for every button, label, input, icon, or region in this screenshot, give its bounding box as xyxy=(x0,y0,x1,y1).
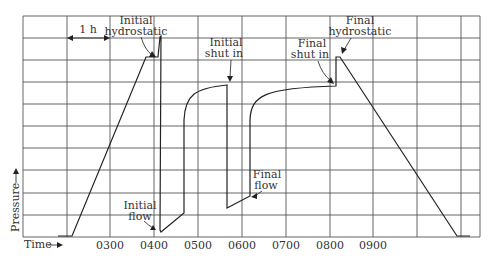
svg-text:0400: 0400 xyxy=(140,239,168,252)
svg-text:0600: 0600 xyxy=(228,239,256,252)
svg-text:flow: flow xyxy=(254,179,278,192)
svg-text:shut in: shut in xyxy=(291,48,329,61)
svg-text:0500: 0500 xyxy=(184,239,212,252)
initial-hydrostatic-annotation: Initial hydrostatic xyxy=(105,14,168,57)
one-hour-label: 1 h xyxy=(79,23,97,36)
svg-text:0300: 0300 xyxy=(96,239,124,252)
svg-text:0700: 0700 xyxy=(272,239,300,252)
svg-text:hydrostatic: hydrostatic xyxy=(329,25,392,38)
svg-text:Pressure: Pressure xyxy=(9,183,22,232)
svg-text:flow: flow xyxy=(128,210,152,223)
pressure-chart: 1 h Initial hydrostatic Initial flow Ini… xyxy=(0,0,491,262)
svg-text:hydrostatic: hydrostatic xyxy=(105,25,168,38)
svg-text:0900: 0900 xyxy=(359,239,387,252)
svg-text:shut in: shut in xyxy=(205,47,243,60)
final-shut-in-annotation: Final shut in xyxy=(291,37,334,84)
pressure-curve xyxy=(58,36,470,236)
svg-text:Time: Time xyxy=(24,238,52,251)
initial-shut-in-annotation: Initial shut in xyxy=(205,36,243,82)
chart-grid xyxy=(23,16,480,237)
svg-text:0800: 0800 xyxy=(316,239,344,252)
x-axis-ticks: 0300 0400 0500 0600 0700 0800 0900 xyxy=(96,239,387,252)
final-flow-annotation: Final flow xyxy=(251,168,282,199)
final-hydrostatic-annotation: Final hydrostatic xyxy=(329,14,392,54)
initial-flow-annotation: Initial flow xyxy=(124,199,157,230)
pressure-axis-label: Pressure xyxy=(9,168,22,232)
time-axis-label: Time xyxy=(24,238,63,251)
